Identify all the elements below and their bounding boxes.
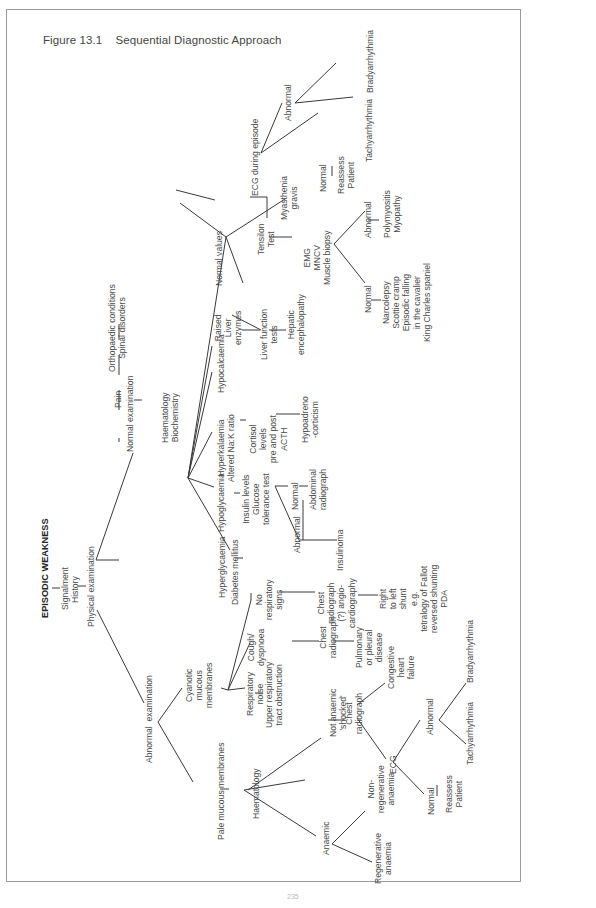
node-hypoadrenocorticism: Hypoadreno -corticism (300, 396, 320, 443)
node-no-respiratory-signs: No respiratory signs (254, 579, 285, 620)
node-pain: Pain (113, 391, 123, 408)
node-ecg-tachyarrhythmia: Tachyarrhythmia (465, 702, 475, 765)
node-ecg: ECG (388, 755, 398, 774)
node-raised-liver-enzymes: Raised Liver enzymes (213, 311, 244, 345)
node-normal-values: Normal values (214, 231, 224, 286)
node-hepatic-encephalopathy: Hepatic encephalopathy (286, 294, 306, 355)
node-emg-normal: Normal (363, 285, 373, 313)
node-hypoglycaemia: Hypoglycaemia (216, 473, 226, 532)
node-insulin-glucose-tolerance: Insulin levels Glucose tolerance test (241, 473, 272, 525)
node-gtt-abnormal: Abnormal (292, 516, 302, 553)
node-congestive-heart-failure: Congestive heart failure (386, 646, 417, 689)
node-haematology: Haematology (251, 768, 261, 819)
node-diabetes-mellitus: Diabetes mellitus (230, 540, 240, 605)
node-upper-respiratory-obstruction: Upper respiratory tract obstruction (264, 662, 284, 728)
node-insulinoma: Insulinoma (335, 529, 345, 571)
node-emg-mncv-biopsy: EMG MNCV Muscle biopsy (302, 231, 333, 285)
node-pulmonary-pleural: Pulmonary or pleural disease (354, 627, 385, 668)
node-anaemic: Anaemic (321, 822, 331, 855)
node-narcolepsy-etc: Narcolepsy Scottie cramp Episodic fallin… (381, 263, 432, 342)
node-respiratory-noise: Respiratory noise (245, 672, 265, 716)
node-hyperglycaemia: Hyperglycaemia (217, 536, 227, 598)
node-ecg-during-episode: ECG during episode (250, 119, 260, 196)
node-episode-reassess: Reassess Patient (336, 156, 356, 194)
node-haematology-biochemistry: Haematology Biochemistry (160, 392, 180, 443)
node-orthopaedic-spinal: Orthopaedic conditions Spinal disorders (107, 284, 127, 372)
node-chest-radiograph-shock: Chest radiograph (344, 693, 364, 734)
node-regenerative-anaemia: Regenerative anaemia (373, 833, 393, 884)
node-gtt-normal: Normal (290, 482, 300, 510)
node-episode-abnormal: Abnormal (283, 84, 293, 121)
node-polymyositis-myopathy: Polymyositis Myopathy (382, 190, 402, 238)
node-pale-mucous-membranes: Pale mucous membranes (216, 743, 226, 840)
page-number: 235 (287, 893, 299, 900)
node-episode-bradyarrhythmia: Bradyarrhythmia (365, 30, 375, 93)
node-ecg-bradyarrhythmia: Bradyarrhythmia (465, 620, 475, 683)
node-normal-examination: Normal examination (125, 376, 135, 452)
node-hyperkalaemia: Hyperkalaemia Altered Na:K ratio (216, 414, 236, 482)
node-ecg-normal: Normal (426, 787, 436, 815)
node-liver-function-tests: Liver function tests (259, 309, 279, 360)
node-ecg-reassess: Reassess Patient (444, 775, 464, 813)
node-ecg-abnormal: Abnormal (425, 698, 435, 735)
node-episode-normal: Normal (318, 164, 328, 192)
node-cough-dyspnoea: Cough/ dyspnoea (246, 629, 266, 666)
tree-connectors (0, 0, 596, 908)
node-abnormal-examination: Abnormal examination (144, 675, 154, 763)
node-tensilon-test: Tensilon Test (256, 223, 276, 255)
node-history: History (70, 576, 80, 603)
node-right-left-shunt: Right to left shunt e.g. tetralogy of Fa… (378, 565, 449, 633)
node-signalment: Signalment (60, 567, 70, 610)
node-episodic-weakness: EPISODIC WEAKNESS (40, 518, 50, 618)
node-emg-abnormal: Abnormal (363, 201, 373, 238)
node-myasthenia-gravis: Myasthenia gravis (279, 176, 299, 220)
node-chest-angiocardiography: Chest radiograph (?) angio- cardiography (316, 578, 357, 628)
node-cortisol-levels: Cortisol levels pre and post ACTH (248, 415, 289, 463)
node-cyanotic-mucous-membranes: Cyanotic mucous membranes (184, 663, 215, 708)
node-physical-examination: Physical examination (86, 546, 96, 627)
node-abdominal-radiograph: Abdominal radiograph (308, 469, 328, 510)
node-episode-tachyarrhythmia: Tachyarrhythmia (364, 99, 374, 162)
